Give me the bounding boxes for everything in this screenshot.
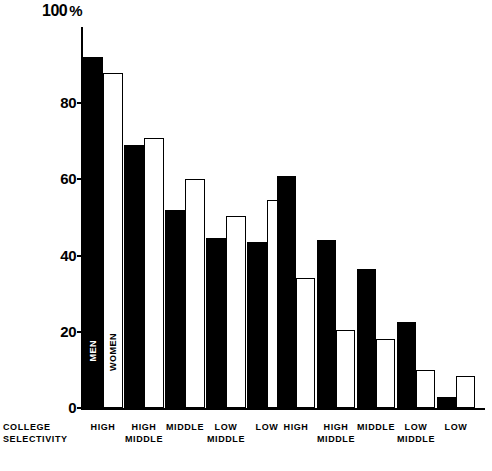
bar-left-1-women	[144, 138, 164, 409]
bar-right-0-men	[277, 176, 296, 408]
bar-chart: 100% 806040200 MENWOMENHIGHHIGHMIDDLEMID…	[0, 0, 492, 471]
bar-right-2-women	[376, 339, 395, 408]
series-tag-men: MEN	[88, 340, 98, 362]
series-tag-women: WOMEN	[108, 333, 118, 371]
x-axis-title-line1: COLLEGE	[3, 422, 51, 432]
bar-right-4-men	[437, 397, 456, 408]
x-axis-title-line2: SELECTIVITY	[3, 434, 68, 444]
bar-right-1-women	[336, 330, 355, 408]
bar-left-2-women	[185, 179, 205, 408]
category-label-right-4: LOW	[425, 421, 487, 433]
category-label-line2: MIDDLE	[305, 433, 367, 445]
bar-right-0-women	[296, 278, 315, 408]
bar-left-4-men	[247, 242, 267, 408]
plot-area: MENWOMENHIGHHIGHMIDDLEMIDDLELOWMIDDLELOW…	[0, 0, 492, 471]
bar-left-1-men	[124, 145, 144, 408]
bar-right-3-men	[397, 322, 416, 408]
bar-left-2-men	[165, 210, 185, 408]
bar-right-2-men	[357, 269, 376, 408]
category-label-line2: MIDDLE	[194, 433, 258, 445]
category-label-line2: MIDDLE	[385, 433, 447, 445]
category-label-line1: LOW	[425, 421, 487, 433]
x-axis-title: COLLEGE SELECTIVITY	[3, 421, 68, 445]
bar-left-3-men	[206, 238, 226, 408]
bar-left-3-women	[226, 216, 246, 408]
bar-right-3-women	[416, 370, 435, 408]
bar-right-1-men	[317, 240, 336, 408]
bar-right-4-women	[456, 376, 475, 408]
category-label-line2: MIDDLE	[112, 433, 176, 445]
